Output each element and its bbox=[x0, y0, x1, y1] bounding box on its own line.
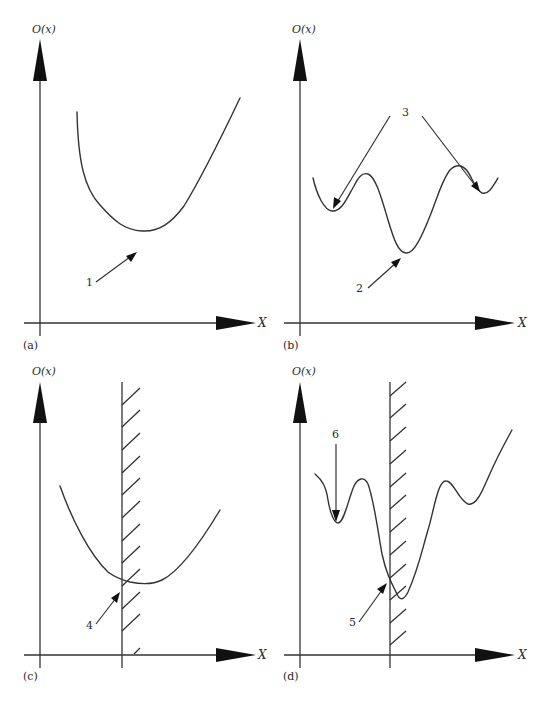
panel-d-plot bbox=[272, 360, 545, 713]
x-axis-arrowhead-icon bbox=[475, 316, 515, 330]
arrowhead-icon bbox=[111, 592, 120, 603]
panel-c-plot bbox=[0, 360, 272, 713]
annotation-arrow-5 bbox=[359, 590, 382, 622]
x-axis-arrowhead-icon bbox=[216, 648, 256, 662]
panel-a-plot bbox=[0, 0, 272, 360]
annotation-label-5: 5 bbox=[349, 617, 356, 628]
panel-tag: (d) bbox=[283, 671, 299, 682]
x-axis-arrowhead-icon bbox=[216, 316, 256, 330]
annotation-label-4: 4 bbox=[86, 620, 93, 631]
x-axis-label: X bbox=[258, 649, 267, 661]
annotation-label-1: 1 bbox=[86, 277, 93, 288]
y-axis-label: O(x) bbox=[32, 366, 56, 377]
objective-curve bbox=[77, 98, 240, 231]
annotation-label-6: 6 bbox=[332, 429, 339, 440]
constraint-boundary bbox=[122, 382, 140, 668]
panel-b-plot bbox=[272, 0, 545, 360]
panel-b: O(x) X 3 2 (b) bbox=[272, 0, 545, 360]
annotation-arrow-2 bbox=[368, 262, 397, 288]
y-axis-arrowhead-icon bbox=[33, 382, 47, 423]
x-axis-arrowhead-icon bbox=[475, 648, 515, 662]
y-axis-label: O(x) bbox=[292, 366, 316, 377]
panel-c: O(x) X 4 (c) bbox=[0, 360, 272, 713]
y-axis-label: O(x) bbox=[292, 24, 316, 35]
arrowhead-icon bbox=[332, 510, 340, 522]
annotation-arrow-3-right bbox=[422, 116, 477, 188]
y-axis-arrowhead-icon bbox=[293, 39, 307, 81]
objective-curve bbox=[315, 430, 512, 599]
panel-a: O(x) X 1 (a) bbox=[0, 0, 272, 360]
y-axis-label: O(x) bbox=[32, 24, 56, 35]
arrowhead-icon bbox=[126, 252, 137, 262]
annotation-label-3: 3 bbox=[402, 107, 409, 118]
panel-tag: (c) bbox=[23, 671, 38, 682]
panel-tag: (a) bbox=[23, 340, 38, 351]
annotation-arrow-4 bbox=[96, 598, 116, 624]
annotation-arrow-3-left bbox=[336, 116, 390, 204]
y-axis-arrowhead-icon bbox=[293, 382, 307, 423]
y-axis-arrowhead-icon bbox=[33, 39, 47, 81]
x-axis-label: X bbox=[518, 317, 527, 329]
x-axis-label: X bbox=[258, 317, 267, 329]
objective-curve bbox=[60, 486, 220, 584]
x-axis-label: X bbox=[518, 649, 527, 661]
panel-d: O(x) X 6 5 (d) bbox=[272, 360, 545, 713]
annotation-label-2: 2 bbox=[356, 283, 363, 294]
arrowhead-icon bbox=[377, 583, 387, 594]
panel-tag: (b) bbox=[283, 340, 299, 351]
constraint-boundary bbox=[390, 382, 406, 668]
